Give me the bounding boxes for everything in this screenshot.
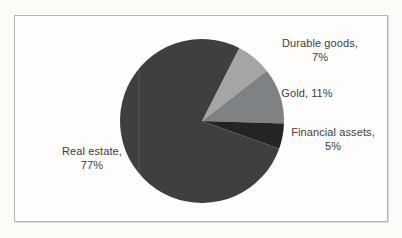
label-line: Durable goods,: [260, 36, 380, 50]
label-line: 7%: [260, 50, 380, 64]
label-line: Gold, 11%: [247, 86, 367, 100]
data-label-real-estate: Real estate, 77%: [32, 144, 152, 172]
data-label-gold: Gold, 11%: [247, 86, 367, 100]
label-line: 5%: [273, 139, 393, 153]
data-label-financial-assets: Financial assets, 5%: [273, 125, 393, 153]
label-line: 77%: [32, 158, 152, 172]
label-line: Financial assets,: [273, 125, 393, 139]
scanned-chart-page: Durable goods, 7% Gold, 11% Financial as…: [0, 0, 402, 238]
label-line: Real estate,: [32, 144, 152, 158]
data-label-durable-goods: Durable goods, 7%: [260, 36, 380, 64]
